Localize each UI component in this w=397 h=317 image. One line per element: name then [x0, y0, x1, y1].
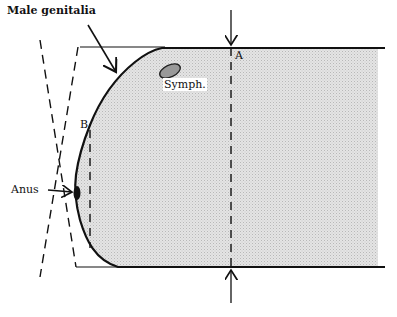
diagram: Male genitalia Symph. A B Anus: [0, 0, 397, 317]
label-point-b: B: [80, 118, 88, 131]
label-symph: Symph.: [163, 78, 207, 91]
label-male-genitalia: Male genitalia: [7, 4, 96, 17]
diagram-canvas: [0, 0, 397, 317]
anus-marker: [74, 186, 81, 200]
anus-arrow: [48, 190, 72, 192]
label-anus: Anus: [11, 183, 39, 196]
dashed-line-left: [40, 40, 76, 267]
genitalia-arrow: [88, 25, 116, 72]
body-region: [75, 48, 378, 267]
label-point-a: A: [235, 49, 243, 62]
